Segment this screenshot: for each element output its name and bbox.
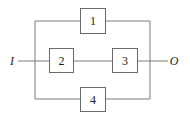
block-3-label: 3 (122, 54, 128, 68)
output-label: O (170, 54, 179, 68)
block-2: 2 (50, 49, 74, 73)
block-1-label: 1 (90, 14, 96, 28)
block-3: 3 (113, 49, 138, 73)
reliability-block-diagram: 1 2 3 4 I O (0, 0, 190, 118)
block-1: 1 (81, 9, 106, 34)
block-4: 4 (81, 88, 106, 112)
input-label: I (9, 54, 15, 68)
block-2-label: 2 (59, 54, 65, 68)
block-4-label: 4 (90, 93, 96, 107)
